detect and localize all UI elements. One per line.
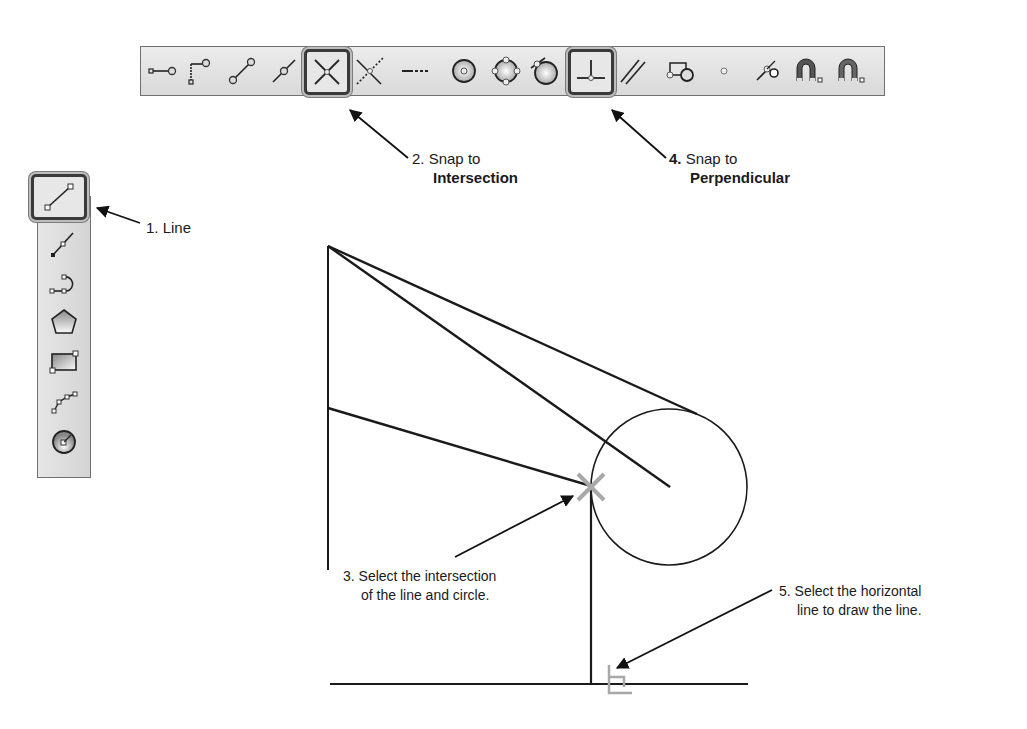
snap-quadrant-icon[interactable]: [489, 54, 523, 88]
snap-midpoint-icon[interactable]: [267, 54, 301, 88]
callout-step3: 3. Select the intersection of the line a…: [343, 567, 496, 605]
callout-step4-prefix: Snap to: [682, 150, 738, 167]
callout-step3-line1: 3. Select the intersection: [343, 567, 496, 586]
callout-step1-text: 1. Line: [146, 219, 191, 236]
callout-step4-emphasis: Perpendicular: [690, 169, 790, 186]
geometry: [328, 246, 748, 684]
snap-parallel-icon[interactable]: [617, 54, 651, 88]
snap-tangent-icon[interactable]: [527, 54, 561, 88]
draw-toolbar: [37, 196, 91, 478]
draw-polygon-icon[interactable]: [47, 305, 81, 339]
snap-toolbar: [140, 46, 885, 96]
snap-perpendicular-icon[interactable]: [568, 49, 614, 95]
snap-endpoint-icon[interactable]: [145, 54, 179, 88]
callout-step4: 4. Snap to Perpendicular: [669, 149, 790, 187]
callout-step4-number: 4.: [669, 150, 682, 167]
callout-step3-line2: of the line and circle.: [343, 586, 496, 605]
callout-step1: 1. Line: [146, 218, 191, 237]
draw-circle-icon[interactable]: [47, 425, 81, 459]
center-line: [328, 246, 670, 487]
snap-extension-icon[interactable]: [399, 54, 433, 88]
snap-node-icon[interactable]: [707, 54, 741, 88]
snap-settings-magnet-icon[interactable]: [835, 54, 869, 88]
circle: [591, 409, 747, 565]
draw-arc-polyline-icon[interactable]: [47, 267, 81, 301]
snap-insert-icon[interactable]: [665, 54, 699, 88]
draw-line-icon[interactable]: [31, 174, 87, 220]
callout-step5: 5. Select the horizontal line to draw th…: [779, 582, 922, 620]
callout-step5-line1: 5. Select the horizontal: [779, 582, 922, 601]
draw-polyline-icon[interactable]: [47, 227, 81, 261]
callout-step2-emphasis: Intersection: [433, 169, 518, 186]
intersection-snap-marker: [578, 474, 604, 500]
snap-intersection-icon[interactable]: [304, 49, 350, 95]
snap-apparent-intersection-icon[interactable]: [353, 54, 387, 88]
tangent-line: [328, 246, 697, 414]
snap-midline-icon[interactable]: [225, 54, 259, 88]
angled-line: [328, 408, 591, 486]
snap-center-icon[interactable]: [447, 54, 481, 88]
draw-spline-icon[interactable]: [47, 385, 81, 419]
callout-step5-line2: line to draw the line.: [779, 601, 922, 620]
snap-off-magnet-icon[interactable]: [793, 54, 827, 88]
perpendicular-snap-marker: [609, 665, 632, 693]
snap-nearest-icon[interactable]: [751, 54, 785, 88]
callout-step2: 2. Snap to Intersection: [412, 149, 518, 187]
snap-endpoint-corner-icon[interactable]: [183, 54, 217, 88]
draw-rectangle-icon[interactable]: [47, 345, 81, 379]
callout-step2-prefix: 2. Snap to: [412, 149, 518, 168]
